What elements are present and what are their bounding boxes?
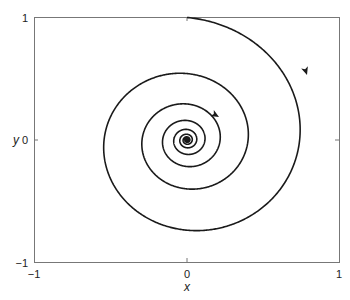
- arrowhead-icon: [301, 66, 310, 76]
- x-tick-label-mid: 0: [184, 268, 190, 280]
- y-tick-label-mid: 0: [22, 134, 28, 146]
- x-tick-label-right: 1: [336, 268, 342, 280]
- trajectory-curve: [104, 18, 300, 231]
- phase-portrait-chart: 1 0 −1 −1 0 1 x y: [0, 0, 350, 300]
- x-tick-label-left: −1: [28, 268, 41, 280]
- x-axis-label: x: [183, 280, 191, 294]
- y-tick-label-bottom: −1: [15, 257, 28, 269]
- y-tick-label-top: 1: [22, 12, 28, 24]
- y-axis-label: y: [12, 133, 20, 147]
- direction-arrows: [210, 66, 310, 120]
